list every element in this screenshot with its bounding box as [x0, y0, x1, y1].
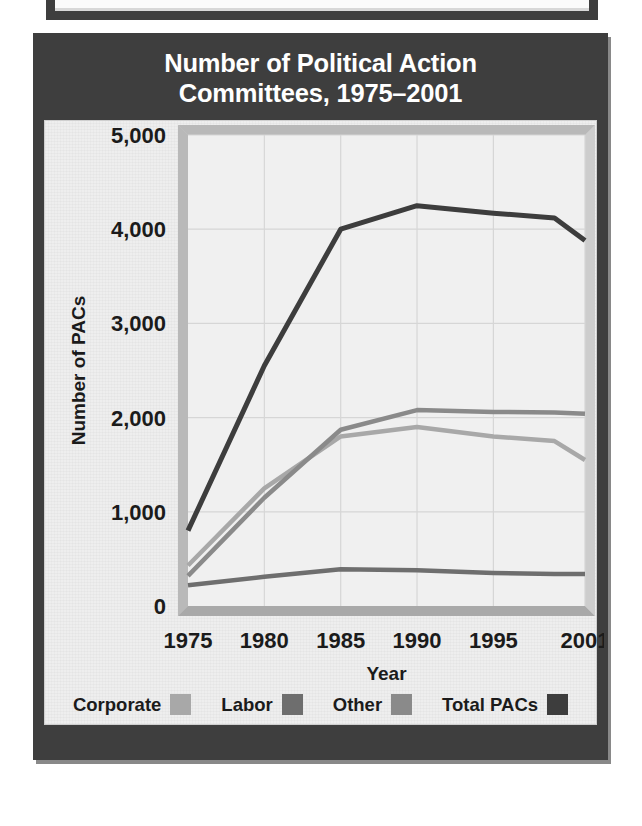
top-cutoff-box-inner [55, 0, 589, 11]
x-tick-label: 2001 [561, 628, 604, 653]
plot-area-background [188, 135, 585, 606]
legend-swatch-icon [170, 694, 191, 715]
y-tick-label: 3,000 [111, 311, 166, 336]
y-tick-label: 5,000 [111, 123, 166, 148]
y-axis-title: Number of PACs [68, 295, 89, 445]
line-chart-plot: 01,0002,0003,0004,0005,000Number of PACs… [45, 121, 604, 726]
x-tick-label: 1980 [240, 628, 289, 653]
legend-item-labor[interactable]: Labor [221, 694, 302, 716]
legend-swatch-icon [282, 694, 303, 715]
x-tick-label: 1985 [316, 628, 365, 653]
y-tick-label: 2,000 [111, 405, 166, 430]
legend-item-label: Other [333, 694, 382, 716]
plot-frame-bevel-right [585, 125, 595, 616]
legend-swatch-icon [391, 694, 412, 715]
legend-item-other[interactable]: Other [333, 694, 412, 716]
page-title-line-2: Committees, 1975–2001 [58, 79, 583, 109]
legend-item-corporate[interactable]: Corporate [73, 694, 191, 716]
page-title-line-1: Number of Political Action [58, 49, 583, 79]
legend-item-label: Corporate [73, 694, 161, 716]
x-tick-label: 1995 [469, 628, 518, 653]
x-tick-label: 1990 [393, 628, 442, 653]
y-tick-label: 0 [154, 594, 166, 619]
y-axis-tick-labels: 01,0002,0003,0004,0005,000 [111, 123, 166, 619]
page-title: Number of Political Action Committees, 1… [40, 40, 601, 120]
legend-item-total-pacs[interactable]: Total PACs [442, 694, 568, 716]
y-tick-label: 1,000 [111, 499, 166, 524]
plot-frame-bevel-top [178, 125, 595, 135]
chart-figure: Number of Political Action Committees, 1… [33, 33, 608, 760]
y-tick-label: 4,000 [111, 217, 166, 242]
legend-swatch-icon [547, 694, 568, 715]
chart-legend: CorporateLaborOtherTotal PACs [45, 694, 596, 716]
chart-panel: 01,0002,0003,0004,0005,000Number of PACs… [44, 120, 597, 725]
plot-frame-bevel-bottom [178, 606, 595, 616]
top-cutoff-box [46, 0, 598, 20]
x-axis-title: Year [366, 663, 407, 684]
x-axis-tick-labels: 197519801985199019952001 [164, 628, 604, 653]
legend-item-label: Labor [221, 694, 272, 716]
x-tick-label: 1975 [164, 628, 213, 653]
legend-item-label: Total PACs [442, 694, 538, 716]
plot-frame-bevel-left [178, 125, 188, 616]
